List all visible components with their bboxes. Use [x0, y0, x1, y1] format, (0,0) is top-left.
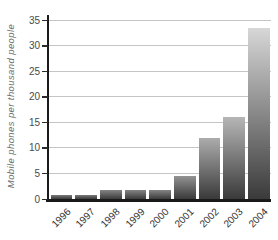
y-tick-label-10: 10	[14, 141, 40, 154]
x-label-2000: 2000	[148, 206, 172, 230]
bar-1999	[125, 190, 147, 199]
gridline-35	[49, 20, 271, 21]
gridline-25	[49, 71, 271, 72]
x-label-2003: 2003	[222, 206, 246, 230]
bar-2003	[223, 117, 245, 199]
bar-chart: Mobile phones per thousand people 051015…	[0, 0, 278, 240]
y-tick-label-25: 25	[14, 65, 40, 78]
y-tick-10	[42, 147, 48, 149]
bar-2002	[199, 138, 221, 199]
x-label-1998: 1998	[98, 206, 122, 230]
bar-2000	[149, 190, 171, 199]
gridline-20	[49, 96, 271, 97]
x-label-1997: 1997	[74, 206, 98, 230]
y-tick-label-5: 5	[14, 167, 40, 180]
y-tick-label-15: 15	[14, 116, 40, 129]
gridline-30	[49, 45, 271, 46]
x-label-2004: 2004	[246, 206, 270, 230]
y-tick-label-20: 20	[14, 90, 40, 103]
bar-1998	[100, 190, 122, 199]
y-tick-label-35: 35	[14, 14, 40, 27]
x-label-2001: 2001	[172, 206, 196, 230]
y-tick-label-30: 30	[14, 39, 40, 52]
y-tick-15	[42, 122, 48, 124]
bar-2004	[248, 28, 270, 199]
x-axis-line	[46, 199, 271, 202]
y-tick-30	[42, 45, 48, 47]
bar-2001	[174, 176, 196, 199]
x-label-2002: 2002	[197, 206, 221, 230]
y-tick-0	[42, 199, 48, 201]
y-tick-label-0: 0	[14, 193, 40, 206]
y-tick-5	[42, 173, 48, 175]
y-tick-25	[42, 71, 48, 73]
y-tick-20	[42, 96, 48, 98]
x-label-1999: 1999	[123, 206, 147, 230]
y-tick-35	[42, 20, 48, 22]
x-label-1996: 1996	[49, 206, 73, 230]
